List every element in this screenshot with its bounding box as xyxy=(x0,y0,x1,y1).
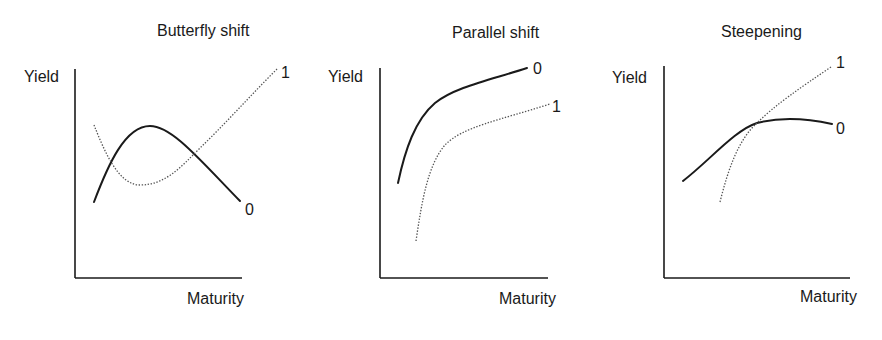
curve-label-0: 0 xyxy=(245,201,254,219)
curve-label-1: 1 xyxy=(836,54,845,72)
curve-1-dotted xyxy=(416,104,550,241)
panel-butterfly xyxy=(75,69,277,278)
curve-0-solid xyxy=(683,119,832,181)
curve-label-1: 1 xyxy=(281,64,290,82)
y-axis-label: Yield xyxy=(612,69,647,87)
panel-title-parallel: Parallel shift xyxy=(452,24,539,42)
curve-0-solid xyxy=(94,126,240,202)
x-axis-label: Maturity xyxy=(800,288,857,306)
panel-steepening xyxy=(664,66,850,278)
curve-0-solid xyxy=(398,68,527,183)
plot-canvas xyxy=(0,0,882,340)
curve-label-1: 1 xyxy=(552,98,561,116)
y-axis-label: Yield xyxy=(328,68,363,86)
curve-label-0: 0 xyxy=(836,120,845,138)
panel-title-butterfly: Butterfly shift xyxy=(157,22,249,40)
y-axis-label: Yield xyxy=(24,68,59,86)
curve-label-0: 0 xyxy=(533,60,542,78)
curve-1-dotted xyxy=(94,69,277,185)
panel-title-steepening: Steepening xyxy=(721,23,802,41)
x-axis-label: Maturity xyxy=(187,290,244,308)
panel-parallel xyxy=(380,68,550,278)
x-axis-label: Maturity xyxy=(499,290,556,308)
yield-curve-shift-figure: Butterfly shift Yield Maturity 0 1 Paral… xyxy=(0,0,882,340)
